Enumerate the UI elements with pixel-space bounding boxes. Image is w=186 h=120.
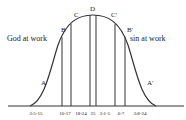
- tick-label: 3:1-5: [100, 111, 111, 116]
- point-label-c: C: [74, 11, 79, 19]
- point-label-c-prime: C': [111, 11, 117, 19]
- bell-curve: [30, 15, 156, 106]
- point-label-d: D: [90, 5, 95, 13]
- point-label-a-prime: A': [147, 79, 153, 87]
- point-label-b-prime: B': [127, 26, 133, 34]
- point-label-a: A: [41, 79, 46, 87]
- tick-label: 6-7: [118, 111, 125, 116]
- tick-label: 16-17: [59, 111, 71, 116]
- left-caption: God at work: [7, 34, 47, 43]
- tick-label: 18-24: [75, 111, 87, 116]
- point-label-b: B: [61, 26, 66, 34]
- right-caption: sin at work: [130, 34, 166, 43]
- bell-curve-diagram: God at work sin at work A B C D C' B' A'…: [0, 0, 186, 120]
- tick-label: 2:5-15: [29, 111, 43, 116]
- tick-label: 25: [91, 111, 97, 116]
- tick-label: 3:8-24: [133, 111, 147, 116]
